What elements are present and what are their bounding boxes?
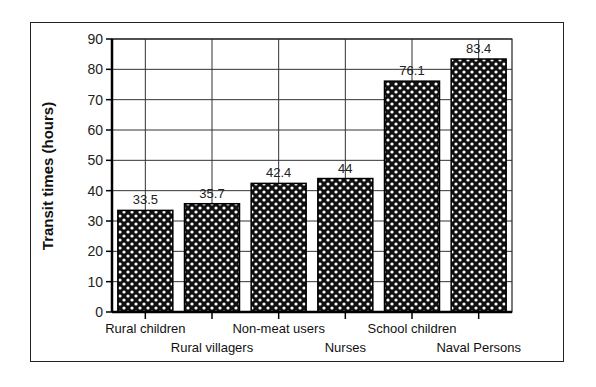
bars — [118, 59, 506, 312]
y-tick-label: 30 — [87, 213, 103, 229]
y-tick-label: 40 — [87, 183, 103, 199]
value-label: 76.1 — [399, 63, 424, 78]
y-tick-label: 60 — [87, 122, 103, 138]
x-category-label: School children — [368, 321, 457, 336]
y-axis-title: Transit times (hours) — [39, 102, 56, 250]
value-label: 35.7 — [199, 186, 224, 201]
x-category-labels: Rural childrenRural villagersNon-meat us… — [105, 321, 521, 355]
y-tick-labels: 0102030405060708090 — [87, 31, 103, 320]
bar — [251, 183, 306, 312]
y-tick-label: 20 — [87, 243, 103, 259]
y-tick-label: 0 — [95, 304, 103, 320]
y-tick-label: 50 — [87, 152, 103, 168]
bar-chart: 0102030405060708090 Rural childrenRural … — [0, 0, 596, 387]
value-label: 44 — [338, 161, 352, 176]
bar — [385, 81, 440, 312]
bar — [318, 179, 373, 312]
bar — [118, 210, 173, 312]
y-tick-label: 80 — [87, 61, 103, 77]
x-category-label: Rural children — [105, 321, 185, 336]
x-category-label: Non-meat users — [232, 321, 325, 336]
x-category-label: Rural villagers — [171, 340, 254, 355]
value-label: 33.5 — [133, 192, 158, 207]
x-category-label: Naval Persons — [436, 340, 521, 355]
y-tick-label: 90 — [87, 31, 103, 47]
y-tick-label: 70 — [87, 92, 103, 108]
x-category-label: Nurses — [325, 340, 367, 355]
value-label: 42.4 — [266, 165, 291, 180]
y-tick-label: 10 — [87, 274, 103, 290]
bar — [185, 204, 240, 312]
value-label: 83.4 — [466, 41, 491, 56]
bar — [451, 59, 506, 312]
